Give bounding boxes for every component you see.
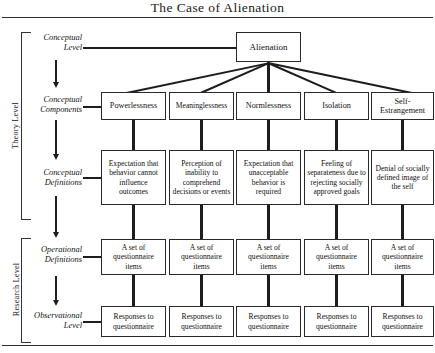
edge-component-1-to-definition-1 <box>132 120 135 150</box>
stage-label-conceptual-definitions: Conceptual Definitions <box>30 168 82 188</box>
edge-definition-4-to-operational-4 <box>335 205 338 239</box>
bracket-label-theory-level: Theory Level <box>11 86 20 166</box>
arrow-conceptual-level-to-components <box>55 60 57 82</box>
edge-definition-1-to-operational-1 <box>132 205 135 239</box>
edge-component-2-to-definition-2 <box>200 120 203 150</box>
node-operational-2[interactable]: A set of questionnaire items <box>169 239 234 275</box>
stage-label-observational-level: Observational Level <box>22 311 82 331</box>
edge-root-to-self-estrangement <box>268 62 413 94</box>
edge-operational-3-to-observational-3 <box>267 275 270 306</box>
node-observational-3[interactable]: Responses to questionnaire <box>236 306 301 337</box>
edge-definition-5-to-operational-5 <box>401 205 404 239</box>
edge-root-to-powerlessness <box>124 62 269 94</box>
node-definition-2[interactable]: Perception of inability to comprehend de… <box>169 150 234 205</box>
edge-component-4-to-definition-4 <box>335 120 338 150</box>
stage-label-operational-definitions: Operational Definitions <box>26 245 82 265</box>
stage-label-line1: Conceptual <box>28 95 82 105</box>
edge-component-3-to-definition-3 <box>267 120 270 150</box>
edge-definition-3-to-operational-3 <box>267 205 270 239</box>
node-component-2[interactable]: Meaninglessness <box>169 92 234 120</box>
node-definition-5[interactable]: Denial of socially defined image of the … <box>371 150 434 205</box>
edge-definition-2-to-operational-2 <box>200 205 203 239</box>
connector-label-to-component-row <box>83 106 102 108</box>
arrow-components-to-definitions <box>55 120 57 154</box>
diagram-page: The Case of Alienation Theory Level Rese… <box>0 0 435 353</box>
node-observational-4[interactable]: Responses to questionnaire <box>304 306 369 337</box>
stage-label-line2: Components <box>28 105 82 115</box>
bracket-theory-level <box>21 32 31 220</box>
node-observational-1[interactable]: Responses to questionnaire <box>101 306 166 337</box>
arrow-definitions-to-operational <box>55 196 57 232</box>
connector-label-to-operational-row <box>83 256 102 258</box>
stage-label-line2: Definitions <box>30 178 82 188</box>
stage-label-line2: Level <box>35 43 82 53</box>
node-observational-5[interactable]: Responses to questionnaire <box>371 306 434 337</box>
node-component-4[interactable]: Isolation <box>304 92 369 120</box>
edge-operational-4-to-observational-4 <box>335 275 338 306</box>
arrow-operational-to-observational <box>55 276 57 300</box>
edge-root-to-isolation <box>268 62 337 94</box>
node-component-1[interactable]: Powerlessness <box>101 92 166 120</box>
stage-label-line1: Observational <box>22 311 82 321</box>
connector-label-to-root <box>83 47 237 49</box>
node-definition-3[interactable]: Expectation that unacceptable behavior i… <box>236 150 301 205</box>
edge-operational-1-to-observational-1 <box>132 275 135 306</box>
node-alienation[interactable]: Alienation <box>236 32 301 62</box>
stage-label-line2: Definitions <box>26 255 82 265</box>
node-operational-1[interactable]: A set of questionnaire items <box>101 239 166 275</box>
connector-label-to-definition-row <box>83 177 102 179</box>
node-operational-4[interactable]: A set of questionnaire items <box>304 239 369 275</box>
edge-component-5-to-definition-5 <box>401 120 404 150</box>
rule-top <box>2 17 433 18</box>
bracket-label-research-level: Research Level <box>12 245 21 335</box>
node-observational-2[interactable]: Responses to questionnaire <box>169 306 234 337</box>
edge-operational-2-to-observational-2 <box>200 275 203 306</box>
stage-label-line1: Conceptual <box>35 33 82 43</box>
node-component-3[interactable]: Normlessness <box>236 92 301 120</box>
node-definition-4[interactable]: Feeling of separateness due to rejecting… <box>304 150 369 205</box>
node-operational-3[interactable]: A set of questionnaire items <box>236 239 301 275</box>
connector-label-to-observational-row <box>83 321 102 323</box>
stage-label-conceptual-level: Conceptual Level <box>35 33 82 53</box>
rule-bottom <box>2 345 433 346</box>
node-component-5[interactable]: Self-Estrangement <box>371 92 434 120</box>
stage-label-line1: Operational <box>26 245 82 255</box>
page-title: The Case of Alienation <box>0 0 435 16</box>
node-definition-1[interactable]: Expectation that behavior cannot influen… <box>101 150 166 205</box>
stage-label-conceptual-components: Conceptual Components <box>28 95 82 115</box>
stage-label-line2: Level <box>22 321 82 331</box>
edge-root-to-normlessness <box>267 62 270 92</box>
node-operational-5[interactable]: A set of questionnaire items <box>371 239 434 275</box>
stage-label-line1: Conceptual <box>30 168 82 178</box>
edge-operational-5-to-observational-5 <box>401 275 404 306</box>
edge-root-to-meaninglessness <box>199 62 268 94</box>
